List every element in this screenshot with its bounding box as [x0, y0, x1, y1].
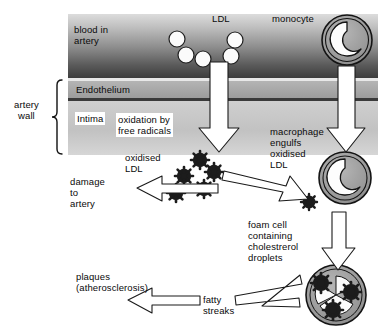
ldl-particle	[178, 47, 194, 63]
label-plaques: plaques (atherosclerosis)	[76, 271, 148, 293]
label-intima: Intima	[75, 112, 105, 125]
label-oxidised-ldl: oxidised LDL	[125, 152, 161, 174]
label-oxidation-by-free-radicals: oxidation by free radicals	[116, 113, 173, 137]
macrophage-cell	[319, 152, 371, 204]
arrow-foam-cell-to-fatty-streaks	[235, 275, 302, 307]
oxidised-ldl-particle	[311, 273, 331, 293]
monocyte-cell	[322, 15, 372, 65]
label-macrophage-engulfs: macrophage engulfs oxidised LDL	[270, 126, 324, 170]
diagram-graphics	[0, 0, 392, 336]
arrow-macrophage-to-foam-cell	[322, 212, 355, 270]
arrow-ldl-to-macrophage	[222, 171, 308, 201]
ldl-particle	[195, 51, 211, 67]
label-monocyte: monocyte	[272, 13, 314, 24]
label-foam-cell: foam cell containing cholestrerol drople…	[248, 219, 298, 263]
label-blood-in-artery: blood in artery	[74, 24, 108, 46]
oxidised-ldl-particle	[205, 163, 223, 181]
label-artery-wall: artery wall	[14, 99, 39, 121]
artery-wall-brace	[52, 80, 62, 154]
label-endothelium: Endothelium	[76, 84, 130, 95]
atherosclerosis-diagram: blood in artery LDL monocyte artery wall…	[0, 0, 392, 336]
oxidised-ldl-particle	[323, 300, 343, 320]
oxidised-ldl-particle	[175, 167, 193, 185]
label-damage-to-artery: damage to artery	[70, 176, 105, 209]
ldl-particle	[169, 31, 185, 47]
oxidised-ldl-particle	[191, 151, 209, 169]
oxidised-ldl-particle	[341, 282, 361, 302]
label-fatty-streaks: fatty streaks	[203, 294, 234, 316]
label-ldl-top: LDL	[212, 13, 230, 24]
ldl-particle	[227, 32, 243, 48]
